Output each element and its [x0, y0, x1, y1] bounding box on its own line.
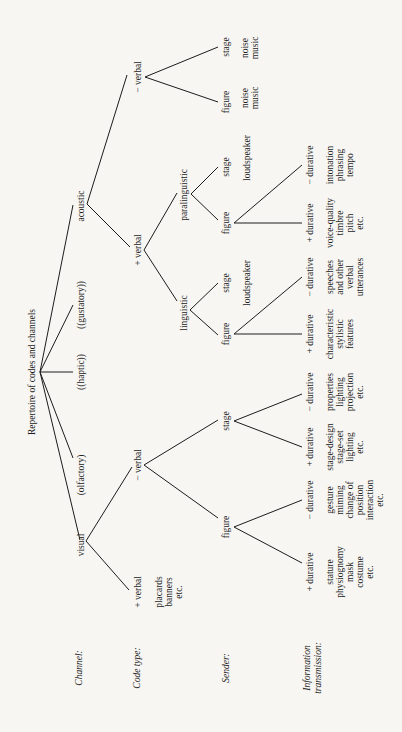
- svg-text:costume: costume: [355, 556, 365, 588]
- subtype-paralinguistic: paralinguistic: [179, 169, 189, 221]
- info-linguistic-stage: loudspeaker: [242, 259, 252, 306]
- info-linguistic-minus-durative: speeches and other verbal utterances: [325, 257, 365, 296]
- svg-text:etc.: etc.: [174, 585, 184, 598]
- svg-text:banners: banners: [164, 577, 174, 607]
- svg-text:gesture: gesture: [325, 486, 335, 513]
- channel-visual: visual: [76, 533, 86, 556]
- svg-text:etc.: etc.: [355, 385, 365, 398]
- svg-text:etc.: etc.: [355, 216, 365, 229]
- svg-text:properties: properties: [325, 373, 335, 411]
- svg-text:phrasing: phrasing: [335, 148, 345, 181]
- channel-acoustic: acoustic: [76, 190, 86, 221]
- sender-linguistic-stage: stage: [221, 273, 231, 293]
- svg-text:stage-design: stage-design: [325, 423, 335, 471]
- row-label-code-type: Code type:: [132, 647, 142, 688]
- sender-linguistic-figure: figure: [221, 323, 231, 346]
- svg-text:features: features: [345, 319, 355, 349]
- durative-visual-stage-minus: − durative: [305, 373, 315, 412]
- info-figure-plus-durative: stature physiognomy mask costume etc.: [325, 546, 375, 598]
- sender-acoustic-nonverbal-figure: figure: [221, 91, 231, 114]
- durative-visual-stage-plus: + durative: [305, 428, 315, 467]
- svg-text:and other: and other: [335, 258, 345, 294]
- sender-paralinguistic-figure: figure: [221, 212, 231, 235]
- svg-text:characteristic: characteristic: [325, 309, 335, 360]
- svg-text:noise: noise: [240, 88, 250, 108]
- info-figure-minus-durative: gesture miming change of position intera…: [325, 479, 385, 520]
- svg-text:verbal: verbal: [345, 265, 355, 289]
- svg-text:lighting: lighting: [335, 377, 345, 407]
- svg-text:stylistic: stylistic: [335, 319, 345, 349]
- durative-linguistic-plus: + durative: [305, 315, 315, 354]
- svg-text:music: music: [250, 87, 260, 110]
- svg-text:etc.: etc.: [355, 440, 365, 453]
- code-type-visual-minus-verbal: − verbal: [133, 449, 143, 481]
- svg-text:placards: placards: [154, 576, 164, 608]
- info-stage-minus-durative: properties lighting projection etc.: [325, 372, 365, 411]
- svg-text:intonation: intonation: [325, 145, 335, 184]
- svg-text:physiognomy: physiognomy: [335, 546, 345, 598]
- svg-text:etc.: etc.: [375, 493, 385, 506]
- code-type-acoustic-plus-verbal: + verbal: [133, 234, 143, 266]
- svg-text:utterances: utterances: [355, 257, 365, 296]
- sender-visual-stage: stage: [221, 411, 231, 431]
- svg-text:lighting: lighting: [345, 432, 355, 462]
- code-type-acoustic-minus-verbal: − verbal: [133, 61, 143, 93]
- svg-text:mask: mask: [345, 562, 355, 582]
- durative-paralinguistic-minus: − durative: [305, 146, 315, 185]
- svg-text:stature: stature: [325, 559, 335, 584]
- subtype-linguistic: linguistic: [179, 295, 189, 330]
- row-label-info-2: transmission:: [313, 642, 323, 694]
- svg-text:speeches: speeches: [325, 260, 335, 294]
- info-paralinguistic-stage: loudspeaker: [242, 134, 252, 181]
- svg-text:pitch: pitch: [345, 213, 355, 232]
- durative-visual-figure-minus: − durative: [305, 481, 315, 520]
- info-paralinguistic-plus-durative: voice-quality timbre pitch etc.: [325, 198, 365, 248]
- svg-text:timbre: timbre: [335, 211, 345, 236]
- svg-text:noise: noise: [240, 38, 250, 58]
- channel-haptic: ((haptic)): [76, 354, 87, 390]
- svg-text:tempo: tempo: [345, 153, 355, 177]
- info-placards: placards banners etc.: [154, 576, 184, 608]
- svg-text:change of: change of: [345, 481, 355, 519]
- durative-paralinguistic-plus: + durative: [305, 204, 315, 243]
- row-label-channel: Channel:: [74, 650, 84, 685]
- code-type-visual-plus-verbal: + verbal: [133, 576, 143, 608]
- svg-text:projection: projection: [345, 372, 355, 411]
- svg-text:etc.: etc.: [365, 565, 375, 578]
- svg-text:interaction: interaction: [365, 479, 375, 520]
- sender-paralinguistic-stage: stage: [221, 157, 231, 177]
- sender-visual-figure: figure: [221, 516, 231, 539]
- sender-acoustic-nonverbal-stage: stage: [221, 37, 231, 57]
- info-acoustic-nonverbal-stage: noise music: [240, 37, 260, 60]
- svg-text:miming: miming: [335, 485, 345, 515]
- codes-channels-diagram: Repertoire of codes and channels Channel…: [0, 0, 402, 732]
- svg-text:voice-quality: voice-quality: [325, 198, 335, 248]
- row-label-info-1: Information: [302, 645, 312, 692]
- info-stage-plus-durative: stage-design stage-set lighting etc.: [325, 423, 365, 471]
- svg-text:stage-set: stage-set: [335, 430, 345, 464]
- diagram-title: Repertoire of codes and channels: [27, 309, 37, 435]
- channel-gustatory: ((gustatory)): [76, 281, 87, 329]
- info-linguistic-plus-durative: characteristic stylistic features: [325, 309, 355, 360]
- durative-linguistic-minus: − durative: [305, 258, 315, 297]
- channel-olfactory: (olfactory): [76, 455, 87, 496]
- info-paralinguistic-minus-durative: intonation phrasing tempo: [325, 145, 355, 184]
- svg-text:position: position: [355, 484, 365, 515]
- durative-visual-figure-plus: + durative: [305, 553, 315, 592]
- svg-text:music: music: [250, 37, 260, 60]
- row-label-sender: Sender:: [221, 653, 231, 683]
- info-acoustic-nonverbal-figure: noise music: [240, 87, 260, 110]
